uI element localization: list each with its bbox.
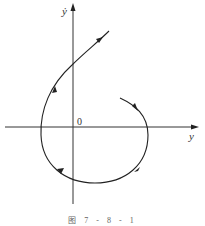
x-axis-label: y <box>189 131 194 142</box>
y-axis-arrow-icon <box>71 3 76 11</box>
direction-arrow-icon <box>132 103 138 111</box>
x-axis-arrow-icon <box>191 125 199 130</box>
figure-caption: 图 7 - 8 - 1 <box>0 214 205 225</box>
origin-label: 0 <box>77 117 82 127</box>
y-axis-label: ẏ <box>62 6 67 17</box>
trajectory-curve <box>41 31 148 183</box>
phase-portrait-diagram <box>0 0 205 226</box>
